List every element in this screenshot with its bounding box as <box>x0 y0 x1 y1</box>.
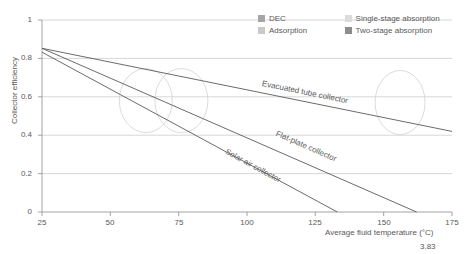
series-flat-plate-collector <box>42 48 417 212</box>
x-tick-marks <box>42 212 452 216</box>
y-tick-label-0.2: 0.2 <box>6 170 32 178</box>
region-left-b-ellipse <box>155 69 208 133</box>
figure-number: 3.83 <box>420 242 436 251</box>
gridlines <box>42 20 452 174</box>
legend-swatch-icon-two-stage-absorption <box>345 27 352 34</box>
legend-item-dec: DEC <box>258 14 331 23</box>
legend-label-adsorption: Adsorption <box>269 26 307 35</box>
legend-item-two-stage-absorption: Two-stage absorption <box>345 26 463 35</box>
annotation-regions <box>119 69 425 135</box>
x-axis-title: Average fluid temperature (°C) <box>325 228 433 237</box>
x-tick-label-125: 125 <box>300 219 330 227</box>
region-left-a-ellipse <box>119 69 172 133</box>
legend-item-single-stage-absorption: Single-stage absorption <box>345 14 463 23</box>
x-tick-label-75: 75 <box>164 219 194 227</box>
legend-label-single-stage-absorption: Single-stage absorption <box>356 14 440 23</box>
y-tick-label-0.8: 0.8 <box>6 54 32 62</box>
legend-label-two-stage-absorption: Two-stage absorption <box>356 26 433 35</box>
region-right-ellipse <box>375 71 425 135</box>
figure-container: Collector efficiency 1 0.8 0.6 0.4 0.2 0… <box>0 0 467 254</box>
series-evacuated-tube-collector <box>42 48 452 131</box>
chart-canvas <box>0 0 467 254</box>
x-tick-label-100: 100 <box>232 219 262 227</box>
legend-swatch-icon-adsorption <box>258 27 265 34</box>
y-tick-marks <box>38 20 42 212</box>
legend-swatch-icon-single-stage-absorption <box>345 15 352 22</box>
series-solar-air-collector <box>42 52 337 212</box>
legend-item-adsorption: Adsorption <box>258 26 331 35</box>
x-tick-label-50: 50 <box>95 219 125 227</box>
y-tick-label-0: 0 <box>6 208 32 216</box>
legend-label-dec: DEC <box>269 14 286 23</box>
x-tick-label-150: 150 <box>369 219 399 227</box>
y-tick-label-0.4: 0.4 <box>6 131 32 139</box>
legend: DEC Single-stage absorption Adsorption T… <box>258 14 463 35</box>
x-tick-label-175: 175 <box>437 219 467 227</box>
x-tick-label-25: 25 <box>27 219 57 227</box>
y-tick-label-1: 1 <box>6 16 32 24</box>
legend-swatch-icon-dec <box>258 15 265 22</box>
y-tick-label-0.6: 0.6 <box>6 93 32 101</box>
